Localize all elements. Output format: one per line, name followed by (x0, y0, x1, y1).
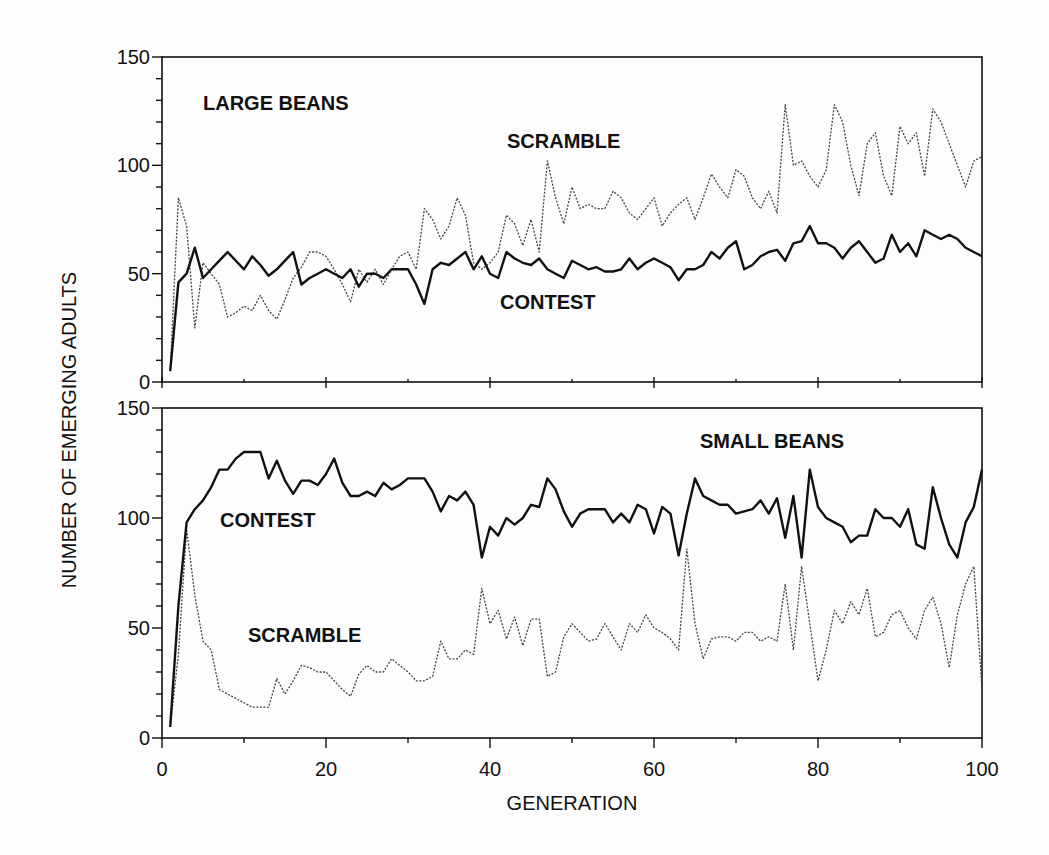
x-tick-label: 80 (807, 758, 829, 780)
y-tick-label: 0 (139, 727, 150, 749)
x-tick-label: 0 (156, 758, 167, 780)
y-tick-label: 150 (117, 397, 150, 419)
top-panel: LARGE BEANS SCRAMBLE CONTEST (152, 57, 982, 388)
chart: LARGE BEANS SCRAMBLE CONTEST SMALL BEANS… (0, 0, 1049, 855)
bottom-panel-title: SMALL BEANS (700, 430, 844, 452)
y-tick-label: 100 (117, 507, 150, 529)
top-y-ticks (152, 57, 162, 382)
bottom-contest-line (170, 452, 982, 727)
x-axis-title: GENERATION (507, 792, 638, 814)
y-tick-label: 100 (117, 154, 150, 176)
bottom-contest-label: CONTEST (220, 509, 316, 531)
top-y-tick-labels: 050100150 (117, 46, 150, 393)
y-tick-label: 0 (139, 371, 150, 393)
x-tick-label: 40 (479, 758, 501, 780)
bottom-scramble-label: SCRAMBLE (248, 624, 361, 646)
bottom-panel: SMALL BEANS CONTEST SCRAMBLE (152, 408, 982, 748)
x-tick-label: 60 (643, 758, 665, 780)
x-tick-label: 100 (965, 758, 998, 780)
top-scramble-label: SCRAMBLE (507, 130, 620, 152)
bottom-y-ticks (152, 408, 162, 738)
top-contest-label: CONTEST (500, 291, 596, 313)
bottom-x-ticks (162, 738, 982, 748)
bottom-plot-frame (162, 408, 982, 738)
y-axis-title: NUMBER OF EMERGING ADULTS (58, 272, 80, 588)
y-tick-label: 150 (117, 46, 150, 68)
x-tick-label: 20 (315, 758, 337, 780)
top-panel-title: LARGE BEANS (203, 92, 349, 114)
x-tick-labels: 020406080100 (156, 758, 998, 780)
y-tick-label: 50 (128, 617, 150, 639)
y-tick-label: 50 (128, 263, 150, 285)
bottom-y-tick-labels: 050100150 (117, 397, 150, 749)
